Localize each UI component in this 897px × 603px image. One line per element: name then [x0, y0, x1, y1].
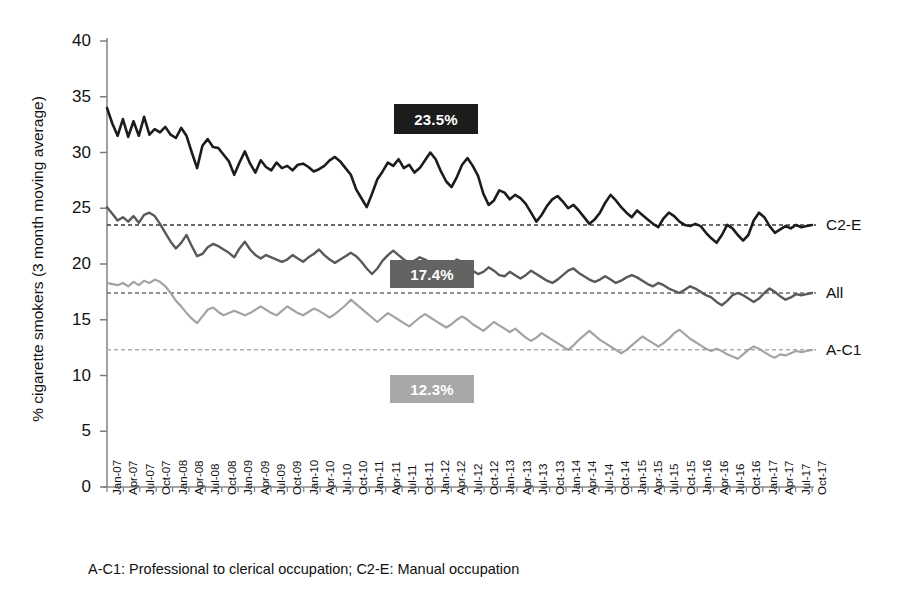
x-tick-label: Oct-11: [424, 461, 436, 495]
x-tick-label: Oct-13: [555, 460, 567, 495]
x-tick-label: Apr-15: [653, 460, 665, 495]
x-tick-label: Oct-07: [161, 460, 173, 495]
x-tick-label: Apr-13: [522, 460, 534, 495]
x-tick-label: Jul-15: [669, 464, 681, 495]
x-tick-label: Oct-10: [358, 460, 370, 495]
x-tick-label: Jan-15: [637, 460, 649, 495]
x-tick-label: Jan-09: [243, 460, 255, 495]
x-tick-label: Oct-09: [292, 460, 304, 495]
x-tick-label: Jul-11: [407, 465, 419, 495]
x-tick-label: Apr-14: [587, 460, 599, 495]
x-tick-label: Jan-12: [440, 460, 452, 495]
x-tick-label: Apr-12: [456, 460, 468, 495]
x-tick-label: Oct-15: [686, 460, 698, 495]
x-tick-label: Apr-09: [260, 460, 272, 495]
x-tick-label: Jul-17: [801, 464, 813, 495]
x-tick-label: Jan-14: [571, 460, 583, 495]
x-tick-label: Jul-16: [735, 464, 747, 495]
x-tick-label: Jul-07: [145, 464, 157, 495]
x-tick-label: Jan-16: [702, 460, 714, 495]
series-label-all: All: [826, 285, 843, 301]
x-tick-label: Oct-17: [817, 460, 829, 495]
x-tick-label: Jan-10: [309, 460, 321, 495]
chart-container: % cigarette smokers (3 month moving aver…: [0, 0, 897, 603]
chart-footnote: A-C1: Professional to clerical occupatio…: [88, 561, 519, 577]
x-tick-label: Oct-08: [227, 460, 239, 495]
x-tick-label: Oct-14: [620, 460, 632, 495]
x-tick-label: Jul-13: [538, 464, 550, 495]
x-tick-label: Apr-07: [128, 460, 140, 495]
x-tick-label: Oct-16: [751, 460, 763, 495]
x-tick-label: Apr-16: [719, 460, 731, 495]
x-tick-label: Jan-13: [505, 460, 517, 495]
x-tick-label: Oct-12: [489, 460, 501, 495]
x-axis-tick-labels: Jan-07Apr-07Jul-07Oct-07Jan-08Apr-08Jul-…: [0, 0, 897, 603]
x-tick-label: Apr-10: [325, 460, 337, 495]
x-tick-label: Jan-17: [768, 460, 780, 495]
value-label-all: 17.4%: [390, 260, 474, 288]
x-tick-label: Jul-14: [604, 464, 616, 495]
x-tick-label: Jul-12: [473, 464, 485, 495]
series-label-c2-e: C2-E: [826, 217, 861, 233]
x-tick-label: Jan-11: [374, 461, 386, 495]
x-tick-label: Apr-17: [784, 460, 796, 495]
x-tick-label: Jan-08: [178, 460, 190, 495]
x-tick-label: Jul-10: [342, 464, 354, 495]
x-tick-label: Apr-08: [194, 460, 206, 495]
x-tick-label: Jul-08: [210, 464, 222, 495]
value-label-c2-e: 23.5%: [394, 104, 478, 134]
series-label-a-c1: A-C1: [826, 342, 861, 358]
value-label-a-c1: 12.3%: [390, 375, 474, 403]
x-tick-label: Jan-07: [112, 460, 124, 495]
x-tick-label: Jul-09: [276, 464, 288, 495]
x-tick-label: Apr-11: [391, 461, 403, 495]
